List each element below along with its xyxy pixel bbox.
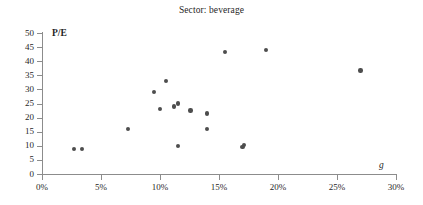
x-axis-tick-label: 20% <box>258 182 298 192</box>
x-axis-tick-label: 0% <box>22 182 62 192</box>
x-axis-tick <box>160 175 161 180</box>
y-axis-tick-label: 15 <box>10 127 34 136</box>
x-axis-tick <box>42 175 43 180</box>
scatter-chart: Sector: beverage P/E g 05101520253035404… <box>0 0 423 205</box>
plot-area <box>42 33 396 174</box>
x-axis-tick <box>337 175 338 180</box>
chart-title: Sector: beverage <box>0 5 423 15</box>
x-axis-tick <box>278 175 279 180</box>
x-axis-tick-label: 15% <box>199 182 239 192</box>
y-axis-tick-label: 10 <box>10 141 34 150</box>
y-axis-tick-label: 35 <box>10 71 34 80</box>
data-point <box>72 147 76 151</box>
x-axis-tick-label: 30% <box>376 182 416 192</box>
data-point <box>176 144 180 148</box>
y-axis-tick-label: 25 <box>10 99 34 108</box>
data-point <box>205 127 209 131</box>
y-axis-tick-label: 30 <box>10 85 34 94</box>
y-axis-tick-label: 0 <box>10 170 34 179</box>
y-axis-tick-label: 20 <box>10 113 34 122</box>
data-point <box>158 107 162 111</box>
x-axis-tick <box>219 175 220 180</box>
y-axis-tick-label: 50 <box>10 29 34 38</box>
data-point <box>152 90 156 94</box>
data-point <box>188 108 192 112</box>
data-point <box>264 48 268 52</box>
x-axis-tick-label: 10% <box>140 182 180 192</box>
data-point <box>242 143 246 147</box>
data-point <box>126 127 130 131</box>
data-point <box>358 68 362 72</box>
data-point <box>80 147 84 151</box>
data-point <box>176 101 180 105</box>
x-axis-tick <box>101 175 102 180</box>
data-point <box>223 50 227 54</box>
x-axis-tick-label: 25% <box>317 182 357 192</box>
data-point <box>205 111 209 115</box>
y-axis-tick-label: 5 <box>10 155 34 164</box>
x-axis-tick <box>396 175 397 180</box>
y-axis-tick-label: 45 <box>10 43 34 52</box>
data-point <box>164 79 168 83</box>
y-axis-tick-label: 40 <box>10 57 34 66</box>
x-axis-tick-label: 5% <box>81 182 121 192</box>
